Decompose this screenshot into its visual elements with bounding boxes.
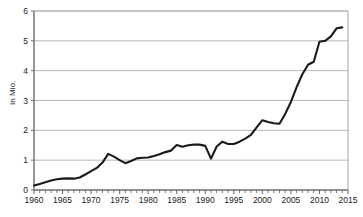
line-chart: in Mio. 0123456 196019651970197519801985… xyxy=(0,0,363,217)
gridlines xyxy=(34,11,348,160)
plot-area xyxy=(0,0,363,217)
data-line-series xyxy=(34,27,342,185)
